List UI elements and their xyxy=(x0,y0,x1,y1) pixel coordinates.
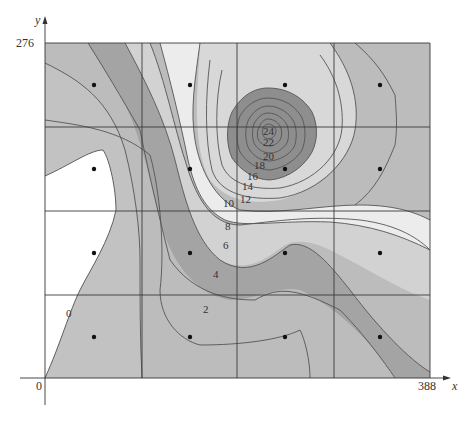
contour-label-2: 2 xyxy=(203,303,209,315)
x-axis-arrow-icon xyxy=(443,376,451,381)
contour-label-10: 10 xyxy=(223,197,235,209)
y-axis-arrow-icon xyxy=(43,16,48,24)
contour-label-22: 22 xyxy=(263,136,274,148)
contour-label-12: 12 xyxy=(240,193,251,205)
x-max-label: 388 xyxy=(418,379,436,393)
contour-label-16: 16 xyxy=(247,170,259,182)
contour-label-24: 24 xyxy=(263,125,275,137)
contour-label-20: 20 xyxy=(263,150,275,162)
origin-label: 0 xyxy=(36,379,42,393)
y-max-label: 276 xyxy=(16,36,34,50)
contour-label-4: 4 xyxy=(213,268,219,280)
contour-label-8: 8 xyxy=(225,220,231,232)
contour-label-0: 0 xyxy=(66,307,72,319)
contour-chart: y x 276 0 388 0 2 4 6 8 10 12 14 16 18 2… xyxy=(0,0,471,421)
y-axis-label: y xyxy=(34,13,41,27)
contour-label-6: 6 xyxy=(223,239,229,251)
x-axis-label: x xyxy=(451,379,458,393)
